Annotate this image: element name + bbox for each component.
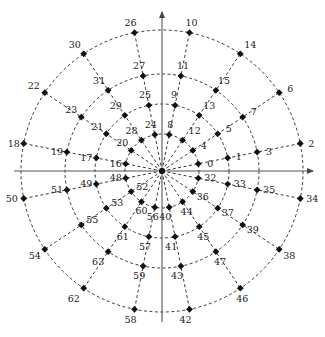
point-label-13: 13 — [203, 100, 215, 111]
point-38 — [276, 246, 283, 253]
point-10 — [186, 29, 193, 36]
point-label-15: 15 — [218, 75, 230, 86]
point-23 — [78, 114, 85, 121]
point-label-29: 29 — [110, 100, 122, 111]
point-label-58: 58 — [125, 314, 137, 325]
point-2 — [297, 140, 304, 147]
point-40 — [166, 204, 173, 211]
point-label-16: 16 — [110, 158, 122, 169]
point-33 — [224, 181, 231, 188]
point-29 — [121, 112, 128, 119]
spoke-6 — [45, 93, 162, 171]
point-54 — [41, 246, 48, 253]
point-49 — [93, 181, 100, 188]
point-label-11: 11 — [177, 60, 189, 71]
point-41 — [172, 233, 179, 240]
spoke-5 — [84, 54, 162, 171]
point-16 — [122, 160, 129, 167]
point-20 — [128, 147, 135, 154]
point-label-59: 59 — [133, 270, 145, 281]
point-12 — [179, 137, 186, 144]
spoke-10 — [84, 171, 162, 288]
point-50 — [20, 195, 27, 202]
origin-point — [159, 168, 165, 174]
point-4 — [189, 147, 196, 154]
point-label-6: 6 — [287, 83, 293, 94]
point-label-52: 52 — [136, 181, 148, 192]
point-label-42: 42 — [180, 314, 192, 325]
point-label-31: 31 — [93, 75, 105, 86]
point-label-35: 35 — [263, 184, 275, 195]
polar-grid-diagram: 0132457612131514891110242527262829313020… — [0, 0, 325, 337]
point-label-8: 8 — [167, 119, 173, 130]
point-63 — [105, 248, 112, 255]
point-label-4: 4 — [201, 140, 207, 151]
point-label-50: 50 — [6, 193, 18, 204]
point-19 — [64, 149, 71, 156]
point-label-45: 45 — [197, 231, 209, 242]
point-1 — [224, 155, 231, 162]
point-7 — [239, 114, 246, 121]
point-label-21: 21 — [91, 121, 103, 132]
point-label-1: 1 — [236, 151, 242, 162]
diagram-canvas: 0132457612131514891110242527262829313020… — [0, 0, 325, 337]
point-47 — [213, 248, 220, 255]
point-44 — [179, 198, 186, 205]
point-label-19: 19 — [51, 146, 63, 157]
point-label-24: 24 — [145, 119, 157, 130]
point-14 — [237, 50, 244, 57]
point-45 — [196, 223, 203, 230]
point-15 — [213, 87, 220, 94]
point-label-46: 46 — [236, 293, 248, 304]
point-label-56: 56 — [147, 211, 159, 222]
point-30 — [80, 50, 87, 57]
spoke-14 — [162, 171, 279, 249]
point-label-38: 38 — [283, 250, 295, 261]
point-label-3: 3 — [266, 146, 272, 157]
point-46 — [237, 285, 244, 292]
point-label-18: 18 — [8, 138, 20, 149]
point-label-28: 28 — [125, 125, 137, 136]
point-label-47: 47 — [214, 256, 226, 267]
point-37 — [214, 205, 221, 212]
point-53 — [103, 205, 110, 212]
point-label-34: 34 — [306, 193, 318, 204]
point-11 — [178, 73, 185, 80]
point-label-2: 2 — [308, 138, 314, 149]
point-22 — [41, 89, 48, 96]
point-label-32: 32 — [204, 172, 216, 183]
point-32 — [195, 175, 202, 182]
point-label-60: 60 — [135, 205, 147, 216]
point-48 — [122, 175, 129, 182]
point-56 — [151, 204, 158, 211]
point-label-44: 44 — [181, 206, 193, 217]
point-35 — [254, 187, 261, 194]
point-0 — [195, 160, 202, 167]
point-58 — [131, 306, 138, 313]
point-label-43: 43 — [171, 270, 183, 281]
point-52 — [128, 188, 135, 195]
point-24 — [151, 131, 158, 138]
point-31 — [105, 87, 112, 94]
spoke-2 — [162, 54, 240, 171]
point-label-37: 37 — [222, 207, 234, 218]
point-label-5: 5 — [226, 123, 232, 134]
point-34 — [297, 195, 304, 202]
point-label-61: 61 — [117, 231, 129, 242]
point-51 — [64, 187, 71, 194]
point-3 — [254, 149, 261, 156]
point-18 — [20, 140, 27, 147]
point-label-49: 49 — [80, 178, 92, 189]
point-21 — [103, 130, 110, 137]
point-label-54: 54 — [29, 250, 41, 261]
point-label-48: 48 — [110, 172, 122, 183]
point-label-57: 57 — [139, 241, 151, 252]
point-label-0: 0 — [207, 158, 213, 169]
point-8 — [166, 131, 173, 138]
point-13 — [196, 112, 203, 119]
point-label-27: 27 — [133, 60, 145, 71]
point-label-23: 23 — [65, 104, 77, 115]
point-label-22: 22 — [28, 80, 40, 91]
point-57 — [146, 233, 153, 240]
point-label-39: 39 — [247, 224, 259, 235]
